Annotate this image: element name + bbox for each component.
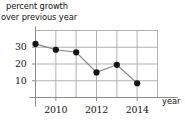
y-axis-tick-label: 10 (9, 75, 27, 86)
y-axis-tick-label: 30 (9, 41, 27, 52)
x-axis-tick-label: 2014 (122, 104, 152, 115)
data-point (73, 49, 79, 55)
data-point (134, 80, 140, 86)
data-point (114, 62, 120, 68)
data-point (53, 47, 59, 53)
data-point (93, 69, 99, 75)
growth-line-chart: percent growth over previous year 102030… (0, 0, 185, 133)
axis-tick-marks (32, 47, 137, 101)
data-point (32, 41, 38, 47)
axis-lines (30, 27, 179, 107)
x-axis-tick-label: 2010 (41, 104, 71, 115)
x-axis-label: year (162, 96, 181, 106)
x-axis-tick-label: 2012 (82, 104, 112, 115)
y-axis-tick-label: 20 (9, 58, 27, 69)
